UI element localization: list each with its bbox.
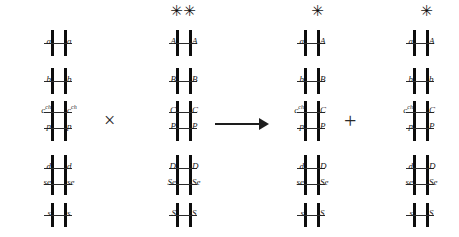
chromatid-left-d-se [51, 155, 54, 195]
allele-label-s-right: s [67, 209, 71, 218]
allele-label-p-left: p [47, 122, 52, 131]
allele-label-a-right: A [192, 37, 198, 46]
allele-label-d-right: D [192, 162, 199, 171]
chromatid-left-c-p [51, 101, 54, 141]
allele-label-b-left: b [47, 75, 52, 84]
arrow-shaft [215, 123, 261, 125]
allele-label-s-right: S [192, 209, 197, 218]
allele-label-d-left: d [409, 162, 414, 171]
allele-label-p-left: p [409, 122, 414, 131]
allele-label-c-left: C [170, 106, 176, 115]
allele-label-p-left: p [300, 122, 305, 131]
allele-label-b-right: B [320, 75, 326, 84]
allele-label-se-right: Se [429, 178, 438, 187]
chromatid-left-d-se [176, 155, 179, 195]
allele-label-b-right: b [429, 75, 434, 84]
chromatid-left-d-se [304, 155, 307, 195]
allele-label-c-right: C [192, 106, 198, 115]
allele-label-a-left: a [300, 37, 305, 46]
allele-label-c-left: cch [294, 106, 304, 115]
allele-label-se-right: se [67, 178, 75, 187]
allele-label-a-right: a [67, 37, 72, 46]
allele-label-se-left: Se [168, 178, 177, 187]
chromatid-left-d-se [413, 155, 416, 195]
arrow-head [259, 118, 269, 130]
allele-label-a-right: A [429, 37, 435, 46]
genetic-cross-diagram: a a b b cch cch p p [0, 0, 459, 237]
allele-label-a-right: A [320, 37, 326, 46]
allele-label-d-right: D [429, 162, 436, 171]
allele-label-c-right: C [429, 106, 435, 115]
asterisk-marker-left: ✳ [170, 5, 183, 18]
allele-label-b-left: b [300, 75, 305, 84]
allele-label-c-right: cch [67, 106, 77, 115]
allele-label-a-left: A [171, 37, 177, 46]
allele-label-d-right: d [67, 162, 72, 171]
chromatid-left-c-p [176, 101, 179, 141]
allele-label-b-right: B [192, 75, 198, 84]
operator-cross: × [104, 110, 115, 130]
allele-label-se-right: Se [192, 178, 201, 187]
allele-label-s-left: s [47, 209, 51, 218]
chromatid-left-c-p [304, 101, 307, 141]
allele-label-s-right: S [320, 209, 325, 218]
asterisk-marker-right: ✳ [183, 5, 196, 18]
allele-label-se-left: se [406, 178, 414, 187]
allele-label-s-left: S [172, 209, 177, 218]
operator-plus: + [344, 110, 356, 132]
allele-label-c-left: cch [41, 106, 51, 115]
chromatid-left-c-p [413, 101, 416, 141]
asterisk-marker-right: ✳ [420, 5, 433, 18]
allele-label-a-left: a [47, 37, 52, 46]
allele-label-p-right: P [192, 122, 198, 131]
allele-label-b-right: b [67, 75, 72, 84]
allele-label-se-right: Se [320, 178, 329, 187]
allele-label-d-right: D [320, 162, 327, 171]
allele-label-d-left: D [170, 162, 177, 171]
allele-label-s-left: s [300, 209, 304, 218]
allele-label-s-left: s [409, 209, 413, 218]
allele-label-a-left: a [409, 37, 414, 46]
allele-label-s-right: S [429, 209, 434, 218]
allele-label-p-right: P [320, 122, 326, 131]
allele-label-d-left: d [300, 162, 305, 171]
allele-label-b-left: b [409, 75, 414, 84]
allele-label-se-left: se [44, 178, 52, 187]
allele-label-p-left: P [171, 122, 177, 131]
asterisk-marker-right: ✳ [311, 5, 324, 18]
allele-label-se-left: se [297, 178, 305, 187]
allele-label-c-left: cch [403, 106, 413, 115]
operator-arrow [215, 118, 271, 130]
allele-label-c-right: C [320, 106, 326, 115]
allele-label-p-right: p [67, 122, 72, 131]
allele-label-p-right: P [429, 122, 435, 131]
allele-label-b-left: B [171, 75, 177, 84]
allele-label-d-left: d [47, 162, 52, 171]
